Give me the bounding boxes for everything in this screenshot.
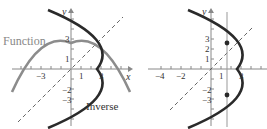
diagram: Function Inverse x y −3 1 3 3 1 −2 −3 [0,0,267,129]
y-tick-label: 1 [65,54,70,64]
y-tick-label: −2 [202,85,212,95]
x-tick-label: −4 [155,71,165,81]
inverse-label: Inverse [86,100,118,112]
left-panel: Function Inverse x y −3 1 3 3 1 −2 −3 [3,6,133,128]
x-tick-label: 1 [219,71,224,81]
y-tick-label: 1 [205,54,210,64]
y-tick-label: 2 [205,44,210,54]
y-tick-label: 3 [65,34,70,44]
y-axis-arrow-icon [68,8,74,13]
x-tick-label: 3 [239,71,244,81]
function-label: Function [3,34,46,48]
y-axis-arrow-icon [208,8,214,13]
y-axis-label: y [201,6,207,17]
intersection-point [225,93,230,98]
x-tick-label: 3 [99,71,104,81]
y-axis-label: y [61,6,67,17]
x-tick-label: −3 [36,71,46,81]
intersection-point [225,41,230,46]
y-tick-label: −3 [62,95,72,105]
y-tick-label: 3 [205,34,210,44]
y-tick-label: −2 [62,85,72,95]
right-panel: y −4 −2 1 3 3 2 1 −2 −3 [148,6,267,128]
x-tick-label: 1 [79,71,84,81]
x-axis-label: x [125,71,131,82]
y-tick-label: −3 [202,95,212,105]
x-tick-label: −2 [176,71,186,81]
